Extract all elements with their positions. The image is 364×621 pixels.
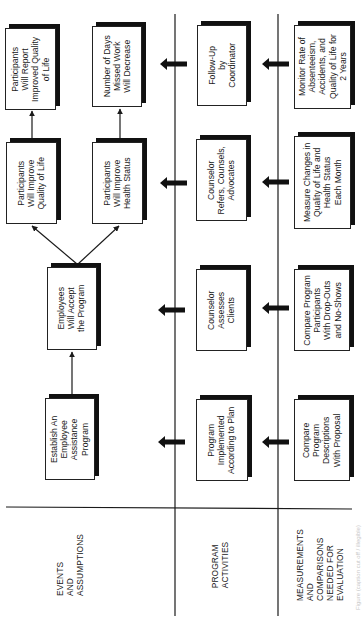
logic-model-diagram: Participants Will Report Improved Qualit… — [0, 0, 364, 621]
block-arrow-row3-a — [158, 304, 185, 316]
box-followup-coordinator: Follow-Up by Coordinator — [197, 25, 247, 106]
block-arrow-row4-a — [158, 436, 185, 448]
figure-caption-faint: Figure (caption cut off / illegible) — [355, 300, 361, 610]
header-events-assumptions: EVENTS AND ASSUMPTIONS — [40, 515, 100, 615]
box-counselor-assesses: Counselor Assesses Clients — [196, 269, 247, 351]
block-arrows — [158, 58, 289, 448]
block-arrow-row1-b — [262, 58, 289, 70]
header-measurements-comparisons: MEASUREMENTS AND COMPARISONS NEEDED FOR … — [290, 515, 350, 615]
block-arrow-row2-b — [262, 176, 289, 188]
arrow-accept-to-qol — [32, 226, 77, 264]
divider-horizontal — [6, 507, 352, 509]
box-measure-changes: Measure Changes in Quality of Life and H… — [294, 136, 351, 229]
box-employees-accept: Employees Will Accept the Program — [47, 267, 97, 350]
box-program-implemented: Program Implemented According to Plan — [196, 399, 248, 481]
box-days-missed-decrease: Number of Days Missed Work Will Decrease — [92, 26, 142, 107]
block-arrow-row1-a — [160, 58, 187, 70]
block-arrow-row4-b — [262, 436, 289, 448]
block-arrow-row3-b — [262, 302, 289, 314]
box-participants-improve-qol: Participants Will Improve Quality of Lif… — [6, 142, 57, 224]
box-participants-report-qol: Participants Will Report Improved Qualit… — [5, 28, 56, 110]
header-program-activities: PROGRAM ACTIVITIES — [200, 515, 240, 615]
box-participants-improve-health: Participants Will Improve Health Status — [92, 142, 143, 224]
block-arrow-row2-a — [160, 177, 187, 189]
box-compare-participants: Compare Program Participants With Drop-O… — [294, 269, 350, 351]
box-counselor-refers: Counselor Refers, Counsels, Advocates — [196, 139, 247, 221]
box-establish-eap: Establish An Employee Assistance Program — [45, 398, 95, 480]
box-monitor-rate: Monitor Rate of Absenteeism, Accidents, … — [294, 25, 351, 109]
box-compare-descriptions: Compare Program Descriptions With Propos… — [294, 399, 350, 481]
arrow-accept-to-health — [78, 226, 119, 264]
